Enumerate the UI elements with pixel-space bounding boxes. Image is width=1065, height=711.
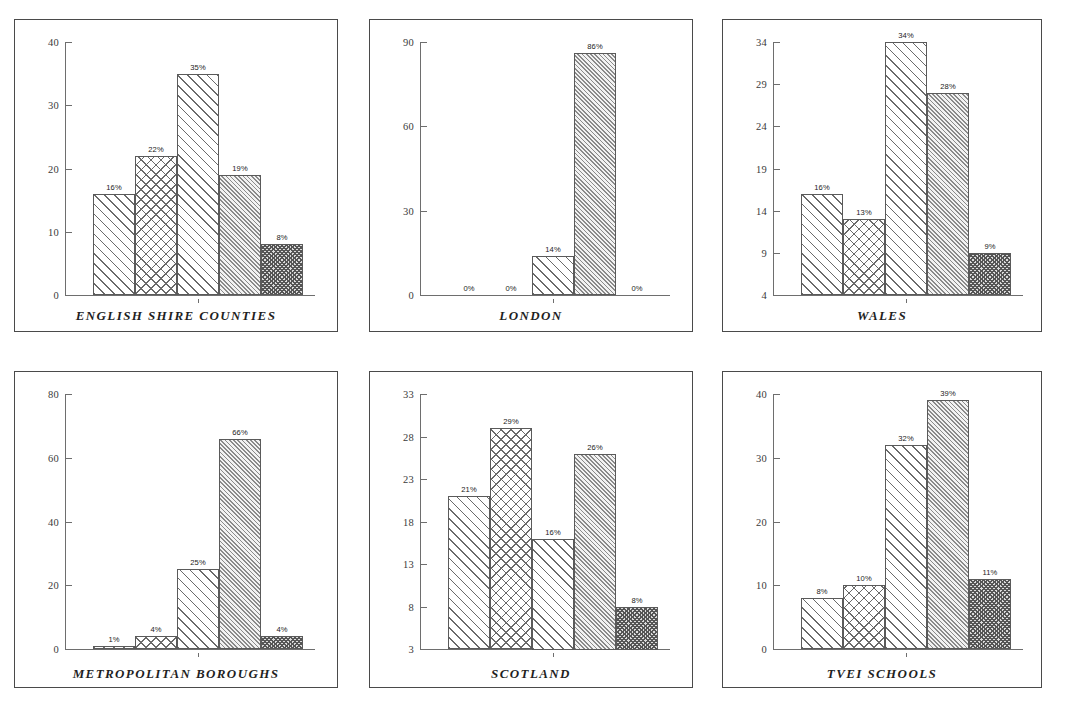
chart-panel-english-shire-counties: 01020304016%22%35%19%8%ENGLISH SHIRE COU… bbox=[14, 19, 338, 332]
bar-value-label: 8% bbox=[631, 596, 642, 605]
y-axis-tick bbox=[774, 211, 780, 212]
plot-area-english-shire-counties: 01020304016%22%35%19%8%ENGLISH SHIRE COU… bbox=[15, 20, 337, 331]
y-axis-tick bbox=[774, 126, 780, 127]
bar-tvei-schools-2 bbox=[843, 585, 885, 649]
y-axis-tick bbox=[421, 522, 427, 523]
bar-value-label: 9% bbox=[984, 242, 995, 251]
plot-area-london: 03060900%0%14%86%0%LONDON bbox=[370, 20, 692, 331]
bar-metropolitan-boroughs-3 bbox=[177, 569, 219, 649]
y-axis-tick bbox=[774, 253, 780, 254]
bar-wales-4 bbox=[927, 93, 969, 295]
y-axis-tick-label: 24 bbox=[733, 121, 767, 132]
bar-value-label: 35% bbox=[190, 63, 206, 72]
chart-panel-tvei-schools: 0102030408%10%32%39%11%TVEI SCHOOLS bbox=[722, 371, 1042, 688]
y-axis-tick bbox=[421, 607, 427, 608]
bar-wales-2 bbox=[843, 219, 885, 295]
x-axis-center-tick bbox=[198, 299, 199, 303]
bar-english-shire-counties-1 bbox=[93, 194, 135, 295]
bar-wales-3 bbox=[885, 42, 927, 295]
bar-value-label: 1% bbox=[108, 635, 119, 644]
y-axis-tick-label: 0 bbox=[380, 290, 414, 301]
y-axis-tick bbox=[774, 84, 780, 85]
bar-value-label: 4% bbox=[150, 625, 161, 634]
y-axis-tick bbox=[66, 394, 72, 395]
bar-english-shire-counties-4 bbox=[219, 175, 261, 295]
y-axis-tick-label: 10 bbox=[733, 580, 767, 591]
y-axis-tick-label: 80 bbox=[25, 389, 59, 400]
y-axis-tick bbox=[421, 42, 427, 43]
y-axis-tick bbox=[66, 232, 72, 233]
bar-tvei-schools-5 bbox=[969, 579, 1011, 649]
bar-value-label: 32% bbox=[898, 434, 914, 443]
bar-metropolitan-boroughs-4 bbox=[219, 439, 261, 649]
y-axis-tick bbox=[66, 169, 72, 170]
y-axis-tick bbox=[421, 211, 427, 212]
bar-value-label: 21% bbox=[461, 485, 477, 494]
bar-english-shire-counties-3 bbox=[177, 74, 219, 295]
chart-panel-london: 03060900%0%14%86%0%LONDON bbox=[369, 19, 693, 332]
x-axis-baseline bbox=[65, 295, 315, 296]
bar-value-label: 13% bbox=[856, 208, 872, 217]
bar-scotland-5 bbox=[616, 607, 658, 650]
bar-value-label: 0% bbox=[505, 284, 516, 293]
x-axis-baseline bbox=[773, 649, 1023, 650]
y-axis-tick bbox=[66, 42, 72, 43]
bar-scotland-3 bbox=[532, 539, 574, 650]
y-axis-tick bbox=[774, 169, 780, 170]
bar-tvei-schools-4 bbox=[927, 400, 969, 649]
y-axis-tick-label: 9 bbox=[733, 248, 767, 259]
y-axis-tick-label: 14 bbox=[733, 206, 767, 217]
bar-value-label: 4% bbox=[276, 625, 287, 634]
y-axis-tick bbox=[66, 585, 72, 586]
plot-area-scotland: 38131823283321%29%16%26%8%SCOTLAND bbox=[370, 372, 692, 687]
bar-value-label: 19% bbox=[232, 164, 248, 173]
panel-title-english-shire-counties: ENGLISH SHIRE COUNTIES bbox=[15, 308, 337, 324]
bar-english-shire-counties-5 bbox=[261, 244, 303, 295]
x-axis-center-tick bbox=[553, 653, 554, 657]
y-axis-tick bbox=[66, 458, 72, 459]
bar-value-label: 8% bbox=[816, 587, 827, 596]
x-axis-center-tick bbox=[198, 653, 199, 657]
y-axis-tick bbox=[421, 479, 427, 480]
bar-value-label: 26% bbox=[587, 443, 603, 452]
bar-scotland-1 bbox=[448, 496, 490, 649]
y-axis-tick-label: 30 bbox=[733, 453, 767, 464]
bar-london-3 bbox=[532, 256, 574, 295]
x-axis-baseline bbox=[773, 295, 1023, 296]
y-axis-tick-label: 60 bbox=[380, 121, 414, 132]
y-axis-tick-label: 90 bbox=[380, 37, 414, 48]
chart-panel-scotland: 38131823283321%29%16%26%8%SCOTLAND bbox=[369, 371, 693, 688]
bar-value-label: 28% bbox=[940, 82, 956, 91]
plot-area-tvei-schools: 0102030408%10%32%39%11%TVEI SCHOOLS bbox=[723, 372, 1041, 687]
y-axis-tick-label: 40 bbox=[733, 389, 767, 400]
bar-value-label: 14% bbox=[545, 245, 561, 254]
bar-value-label: 11% bbox=[983, 568, 998, 577]
bar-value-label: 16% bbox=[106, 183, 122, 192]
y-axis-tick-label: 19 bbox=[733, 164, 767, 175]
y-axis-tick-label: 60 bbox=[25, 453, 59, 464]
y-axis-tick-label: 40 bbox=[25, 517, 59, 528]
y-axis-tick bbox=[774, 42, 780, 43]
y-axis-tick bbox=[421, 564, 427, 565]
bar-value-label: 0% bbox=[631, 284, 642, 293]
panel-title-metropolitan-boroughs: METROPOLITAN BOROUGHS bbox=[15, 666, 337, 682]
bar-value-label: 34% bbox=[898, 31, 914, 40]
y-axis-tick bbox=[66, 522, 72, 523]
y-axis-tick-label: 29 bbox=[733, 79, 767, 90]
y-axis-tick bbox=[774, 522, 780, 523]
y-axis-tick-label: 23 bbox=[380, 474, 414, 485]
y-axis-tick bbox=[421, 437, 427, 438]
x-axis-center-tick bbox=[906, 299, 907, 303]
bar-wales-1 bbox=[801, 194, 843, 295]
bar-english-shire-counties-2 bbox=[135, 156, 177, 295]
y-axis-tick-label: 20 bbox=[733, 517, 767, 528]
y-axis-tick-label: 3 bbox=[380, 644, 414, 655]
bar-metropolitan-boroughs-2 bbox=[135, 636, 177, 649]
panel-title-scotland: SCOTLAND bbox=[370, 666, 692, 682]
y-axis-tick-label: 4 bbox=[733, 290, 767, 301]
y-axis-tick-label: 33 bbox=[380, 389, 414, 400]
panel-title-london: LONDON bbox=[370, 308, 692, 324]
bar-value-label: 39% bbox=[940, 389, 956, 398]
bar-value-label: 66% bbox=[232, 428, 248, 437]
bar-value-label: 25% bbox=[190, 558, 206, 567]
